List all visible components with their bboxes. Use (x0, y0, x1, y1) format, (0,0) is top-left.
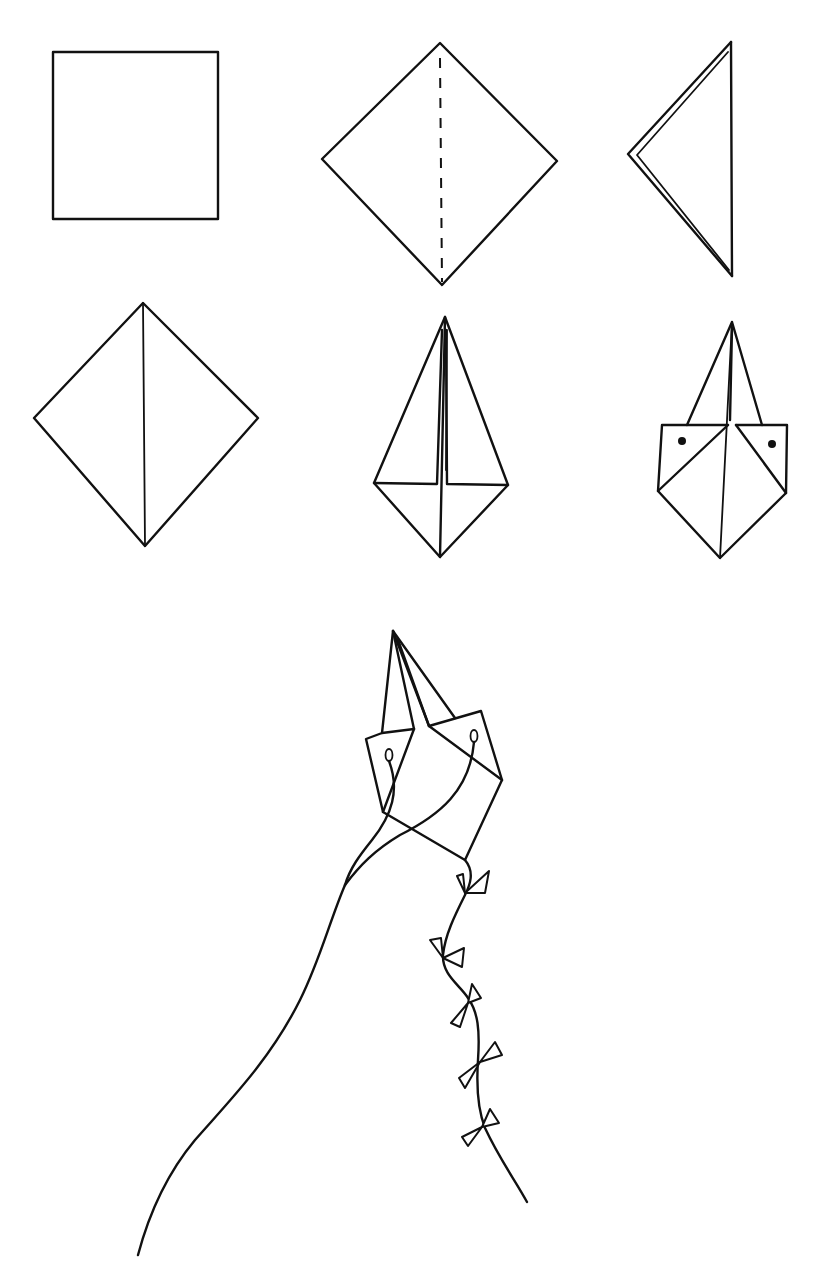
step-6-with-holes (658, 322, 787, 558)
tail-bow (457, 871, 489, 893)
tail-bow (430, 938, 464, 967)
step-4-creased-diamond (34, 303, 258, 546)
tail-bow (459, 1042, 502, 1088)
kite-folding-diagram (0, 0, 820, 1266)
kite-tail (430, 860, 527, 1202)
step-5-sides-folded (374, 317, 508, 557)
step-2-diamond-dashed-fold (322, 43, 557, 285)
step-1-square (53, 52, 218, 219)
step-7-finished-kite (138, 631, 502, 1255)
step-3-folded-triangle (628, 42, 732, 276)
